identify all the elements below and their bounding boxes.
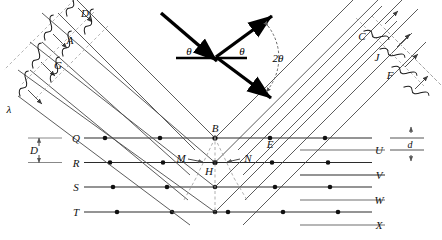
row-label-X: X bbox=[375, 219, 384, 231]
outgoing-ray-2b bbox=[243, 21, 397, 175]
wavefront-A bbox=[20, 12, 94, 86]
label-M: M bbox=[175, 152, 186, 164]
bragg-diffraction-diagram: D A G λ C J F Q R S T U V W X B E M N H … bbox=[0, 0, 442, 240]
outgoing-ray-1b bbox=[238, 6, 382, 150]
incident-ray-2b bbox=[42, 42, 190, 175]
label-H: H bbox=[204, 165, 214, 177]
row-label-R: R bbox=[72, 157, 80, 169]
outgoing-ray-4 bbox=[215, 9, 418, 212]
label-spacing-D: D bbox=[29, 144, 38, 156]
outgoing-rays-secondary bbox=[238, 6, 426, 225]
wavelet-F bbox=[392, 58, 418, 84]
label-D: D bbox=[80, 7, 89, 19]
row-label-T: T bbox=[73, 206, 80, 218]
incident-rays-secondary bbox=[18, 13, 195, 225]
label-theta-reflected: θ bbox=[239, 45, 245, 57]
incident-ray-4b bbox=[18, 96, 190, 225]
incident-arrow-4 bbox=[28, 90, 42, 104]
label-E: E bbox=[266, 138, 274, 150]
outgoing-arrow-4 bbox=[415, 76, 428, 89]
incident-ray-3b bbox=[30, 70, 188, 200]
outgoing-arrow-2 bbox=[397, 34, 410, 47]
row-label-S: S bbox=[73, 181, 79, 193]
atom bbox=[165, 185, 170, 190]
incident-ray-arrowheads bbox=[28, 8, 92, 104]
atom bbox=[328, 185, 333, 190]
label-C: C bbox=[358, 30, 366, 42]
row-label-W: W bbox=[374, 194, 384, 206]
arrow-to-N bbox=[227, 159, 240, 162]
label-F: F bbox=[386, 69, 394, 81]
atom bbox=[161, 160, 166, 165]
outgoing-ray-4b bbox=[243, 42, 426, 225]
construction-B-to-N bbox=[215, 138, 234, 178]
label-G: G bbox=[54, 59, 62, 71]
incident-ray-1 bbox=[66, 0, 215, 138]
outgoing-wavelets bbox=[364, 22, 430, 104]
figure-canvas: D A G λ C J F Q R S T U V W X B E M N H … bbox=[0, 0, 442, 240]
row-label-Q: Q bbox=[72, 132, 80, 144]
atom bbox=[336, 210, 341, 215]
label-theta-incident: θ bbox=[186, 45, 192, 57]
outgoing-ray-1 bbox=[215, 0, 368, 138]
label-A: A bbox=[66, 34, 74, 46]
atom bbox=[323, 136, 328, 141]
construction-N-lower bbox=[234, 178, 247, 200]
atom bbox=[273, 185, 278, 190]
row-label-U: U bbox=[375, 144, 384, 156]
label-spacing-d: d bbox=[408, 139, 414, 150]
atom bbox=[111, 185, 116, 190]
incident-ray-1b bbox=[58, 13, 195, 150]
atom bbox=[226, 210, 231, 215]
label-J: J bbox=[375, 51, 381, 63]
wavelet-right-4 bbox=[404, 78, 430, 104]
atom bbox=[158, 136, 163, 141]
scattering-vector-diagram bbox=[161, 13, 279, 98]
atom bbox=[281, 210, 286, 215]
atom bbox=[115, 210, 120, 215]
atom bbox=[270, 160, 275, 165]
transmitted-vector bbox=[216, 57, 271, 98]
atom bbox=[103, 136, 108, 141]
label-N: N bbox=[243, 152, 252, 164]
atom bbox=[326, 160, 331, 165]
label-two-theta: 2θ bbox=[273, 52, 285, 64]
arrow-to-M bbox=[188, 159, 203, 162]
label-B: B bbox=[212, 122, 219, 134]
path-difference-construction bbox=[184, 136, 247, 214]
label-lambda: λ bbox=[6, 103, 12, 115]
